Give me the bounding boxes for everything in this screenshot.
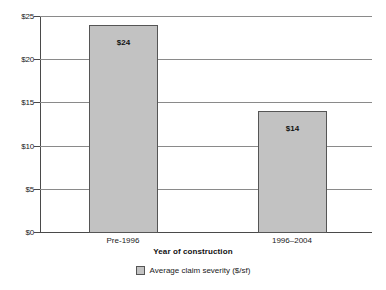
x-axis-category-label-1996-2004: 1996–2004 <box>228 236 356 245</box>
gridline <box>40 16 372 17</box>
bar-chart: $25 $20 $15 $10 $5 $0 $24 $14 Pre-1996 1… <box>0 0 386 290</box>
bar-pre-1996[interactable] <box>89 25 158 233</box>
y-axis-tick-label: $5 <box>0 185 34 194</box>
y-axis-tick-label: $15 <box>0 98 34 107</box>
x-axis-category-label-pre-1996: Pre-1996 <box>59 236 187 245</box>
y-axis-tick-label: $10 <box>0 142 34 151</box>
legend-item-label: Average claim severity ($/sf) <box>150 266 251 275</box>
y-axis-tick-label: $20 <box>0 55 34 64</box>
legend: Average claim severity ($/sf) <box>0 266 386 275</box>
bar-value-label: $14 <box>258 124 327 133</box>
plot-area: $24 $14 <box>40 16 372 232</box>
x-axis-title: Year of construction <box>0 247 386 256</box>
y-axis-tick-label: $0 <box>0 228 34 237</box>
legend-swatch-icon <box>136 266 145 275</box>
y-axis-tick-label: $25 <box>0 12 34 21</box>
bar-value-label: $24 <box>89 38 158 47</box>
